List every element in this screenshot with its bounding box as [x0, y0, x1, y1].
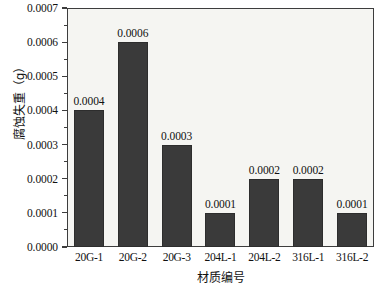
- bar[interactable]: [293, 179, 323, 247]
- bar[interactable]: [337, 213, 367, 247]
- x-axis-tick-label: 316L-1: [292, 249, 324, 265]
- x-axis-tick-label: 204L-2: [248, 249, 280, 265]
- bar[interactable]: [249, 179, 279, 247]
- bar[interactable]: [118, 42, 148, 247]
- bar-value-label: 0.0004: [73, 94, 104, 108]
- x-axis-title: 材质编号: [67, 268, 374, 285]
- bar-group: 0.0004: [67, 8, 111, 247]
- bar-group: 0.0001: [199, 8, 243, 247]
- bar-value-label: 0.0006: [117, 26, 148, 40]
- bar[interactable]: [74, 110, 104, 247]
- bar-value-label: 0.0002: [249, 163, 280, 177]
- x-axis-tick-label: 20G-1: [75, 249, 103, 265]
- y-axis-tick-label: 0.0000: [27, 239, 58, 255]
- bar-group: 0.0006: [111, 8, 155, 247]
- y-axis-tick-label: 0.0003: [27, 137, 58, 153]
- bar-value-label: 0.0003: [161, 129, 192, 143]
- y-axis-tick-label: 0.0001: [27, 205, 58, 221]
- y-axis-title: 腐蚀失重（g）: [10, 21, 27, 181]
- bar-group: 0.0001: [330, 8, 374, 247]
- x-axis-tick-label: 20G-2: [119, 249, 147, 265]
- x-axis-tick-label: 20G-3: [163, 249, 191, 265]
- x-axis-tick-label: 204L-1: [204, 249, 236, 265]
- bar-group: 0.0002: [286, 8, 330, 247]
- bar-value-label: 0.0002: [293, 163, 324, 177]
- bar-value-label: 0.0001: [205, 197, 236, 211]
- y-axis-tick-label: 0.0004: [27, 102, 58, 118]
- bar-chart-figure: 0.00000.00010.00020.00030.00040.00050.00…: [0, 0, 385, 291]
- bar[interactable]: [162, 145, 192, 247]
- bar-group: 0.0003: [155, 8, 199, 247]
- bar[interactable]: [205, 213, 235, 247]
- bar-series: 0.00040.00060.00030.00010.00020.00020.00…: [67, 8, 374, 247]
- y-axis-tick-label: 0.0002: [27, 171, 58, 187]
- y-axis-tick-label: 0.0006: [27, 34, 58, 50]
- y-axis-tick-label: 0.0005: [27, 68, 58, 84]
- y-axis-tick-label: 0.0007: [27, 0, 58, 16]
- x-axis-tick-label: 316L-2: [336, 249, 368, 265]
- bar-group: 0.0002: [242, 8, 286, 247]
- bar-value-label: 0.0001: [337, 197, 368, 211]
- x-axis: 20G-120G-220G-3204L-1204L-2316L-1316L-2: [67, 249, 374, 267]
